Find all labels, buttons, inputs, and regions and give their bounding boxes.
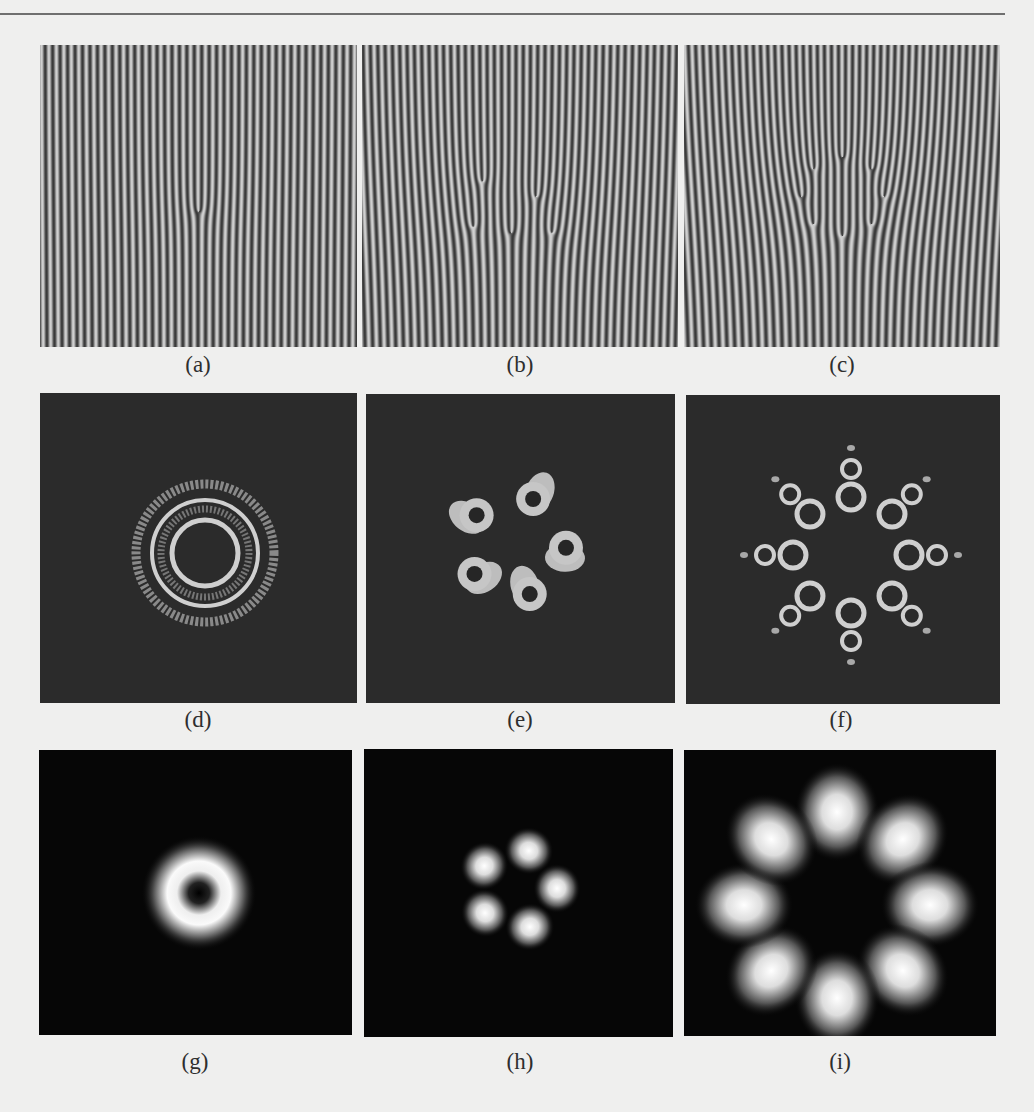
header-rule: [0, 13, 1005, 15]
outer-ring: [136, 484, 274, 622]
panel-b-fork-fringes: [362, 45, 678, 347]
panel-i-petals: [684, 750, 996, 1036]
lobe-hole: [467, 566, 483, 582]
panel-d-ring-contours: [40, 393, 357, 703]
lobe: [442, 494, 493, 541]
satellite-dot: [923, 628, 931, 634]
primary-ring: [896, 542, 922, 568]
primary-ring: [797, 583, 823, 609]
panel-h-petals: [364, 749, 673, 1037]
lobe-hole: [522, 586, 538, 602]
satellite-dot: [847, 659, 855, 665]
primary-ring: [797, 501, 823, 527]
lobe: [516, 468, 560, 516]
panel-label-g: (g): [155, 1050, 235, 1073]
panel-g-donut: [39, 750, 352, 1035]
ring-group: [136, 484, 274, 622]
fringe-image: [40, 45, 357, 347]
panel-label-a: (a): [158, 353, 238, 376]
primary-ring: [879, 583, 905, 609]
satellite-dot: [847, 445, 855, 451]
primary-ring: [879, 501, 905, 527]
lobe-hole: [558, 540, 574, 556]
contour-canvas-f: [686, 395, 1000, 704]
lobe: [544, 531, 585, 573]
lobe-hole: [525, 491, 541, 507]
secondary-ring: [842, 460, 860, 478]
satellite-dot: [923, 476, 931, 482]
panel-c-fork-fringes: [684, 45, 1000, 347]
panel-label-h: (h): [480, 1050, 560, 1073]
donut-spot: [141, 835, 257, 951]
lobe: [458, 555, 509, 601]
intensity-canvas-h: [364, 749, 673, 1037]
lobe-hole: [469, 507, 485, 523]
panel-label-e: (e): [480, 708, 560, 731]
primary-ring: [838, 600, 864, 626]
fringe-canvas-b: [362, 45, 678, 347]
satellite-dot: [771, 476, 779, 482]
secondary-ring: [903, 607, 921, 625]
contour-canvas-e: [366, 394, 675, 703]
intensity-canvas-g: [39, 750, 352, 1035]
lobe: [506, 562, 547, 611]
fringe-image: [684, 45, 1000, 347]
fringe-image: [362, 45, 678, 347]
intensity-canvas-i: [684, 750, 996, 1036]
satellite-dot: [771, 628, 779, 634]
panel-label-b: (b): [480, 353, 560, 376]
secondary-ring: [781, 485, 799, 503]
panel-label-c: (c): [802, 353, 882, 376]
secondary-ring: [903, 485, 921, 503]
panel-a-fork-fringes: [40, 45, 357, 347]
secondary-ring: [756, 546, 774, 564]
secondary-ring: [928, 546, 946, 564]
secondary-ring: [781, 607, 799, 625]
fringe-canvas-c: [684, 45, 1000, 347]
middle-ring: [152, 500, 258, 606]
panel-label-f: (f): [801, 708, 881, 731]
primary-ring: [838, 484, 864, 510]
panel-label-d: (d): [158, 708, 238, 731]
panel-f-lobe-contours: [686, 395, 1000, 704]
panel-e-lobe-contours: [366, 394, 675, 703]
satellite-dot: [954, 552, 962, 558]
fringe-canvas-a: [40, 45, 357, 347]
contour-canvas-d: [40, 393, 357, 703]
panel-label-i: (i): [800, 1050, 880, 1073]
primary-ring: [780, 542, 806, 568]
secondary-ring: [842, 632, 860, 650]
satellite-dot: [740, 552, 748, 558]
inner-ring: [172, 520, 238, 586]
